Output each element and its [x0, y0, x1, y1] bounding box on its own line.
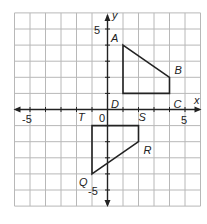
vertex-label-s: S [139, 111, 147, 123]
x-tick-label-5: 5 [181, 114, 187, 126]
y-tick-label-neg5: -5 [88, 185, 98, 197]
vertex-label-d: D [111, 98, 119, 110]
vertex-label-c: C [174, 98, 182, 110]
origin-label: 0 [99, 112, 105, 124]
x-tick-label-neg5: -5 [22, 113, 32, 125]
vertex-label-r: R [144, 144, 152, 156]
vertex-label-a: A [110, 32, 118, 44]
vertex-label-b: B [175, 64, 182, 76]
vertex-label-q: Q [79, 176, 88, 188]
x-axis-label: x [193, 94, 200, 106]
y-tick-label-5: 5 [94, 24, 100, 36]
coordinate-plane: ABCDQRST x y -5 5 5 -5 0 [0, 0, 207, 224]
